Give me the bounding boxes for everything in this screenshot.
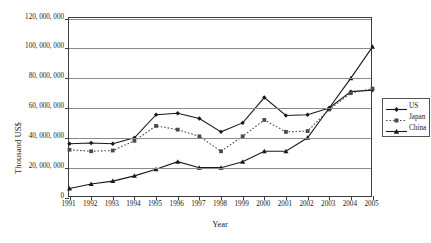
- x-axis-tick-labels: 1991199219931994199519961997199819992000…: [68, 200, 372, 214]
- data-point-marker: [111, 149, 115, 153]
- data-point-marker: [349, 91, 353, 95]
- data-point-marker: [67, 142, 71, 146]
- x-axis-tick-label: 2005: [364, 200, 378, 208]
- x-axis-tick-label: 2001: [278, 200, 292, 208]
- y-axis-tick-labels: 120, 000, 000100, 000, 00080, 000, 00060…: [14, 0, 64, 243]
- data-point-marker: [111, 142, 115, 146]
- data-point-marker: [133, 139, 137, 143]
- data-point-marker: [89, 141, 93, 145]
- legend-item-us[interactable]: US: [385, 101, 426, 112]
- data-point-marker: [371, 87, 375, 91]
- x-axis-tick-label: 2002: [299, 200, 313, 208]
- data-point-marker: [306, 129, 310, 133]
- data-point-marker: [305, 113, 309, 117]
- x-axis-tick-label: 1992: [83, 200, 97, 208]
- legend-item-japan[interactable]: Japan: [385, 112, 426, 123]
- gridline: [69, 78, 371, 79]
- legend-key-swatch: [385, 112, 408, 123]
- x-axis-tick-label: 1999: [235, 200, 249, 208]
- legend-label: US: [408, 103, 418, 110]
- y-axis-tick-label: 0: [60, 193, 64, 200]
- data-point-marker: [154, 124, 158, 128]
- x-axis-tick-label: 1997: [191, 200, 205, 208]
- legend-label: Japan: [408, 114, 425, 121]
- gridline: [69, 19, 371, 20]
- data-point-marker: [176, 111, 180, 115]
- x-axis-title: Year: [68, 219, 372, 229]
- legend-label: China: [408, 125, 426, 132]
- y-axis-tick-label: 20, 000, 000: [29, 163, 64, 170]
- series-line: [70, 89, 373, 152]
- y-axis-tick-mark: [65, 19, 69, 20]
- x-axis-tick-label: 1994: [126, 200, 140, 208]
- x-axis-tick-label: 2004: [343, 200, 357, 208]
- data-point-marker: [89, 149, 93, 153]
- legend: USJapanChina: [382, 98, 430, 137]
- y-axis-tick-mark: [65, 138, 69, 139]
- gridline: [69, 138, 371, 139]
- gridline: [69, 168, 371, 169]
- y-axis-tick-label: 40, 000, 000: [29, 133, 64, 140]
- x-axis-tick-label: 2000: [256, 200, 270, 208]
- line-chart: Thousand US$ 120, 000, 000100, 000, 0008…: [0, 0, 431, 243]
- data-point-marker: [175, 159, 180, 164]
- data-point-marker: [176, 128, 180, 132]
- x-axis-tick-label: 2003: [321, 200, 335, 208]
- data-point-marker: [395, 119, 399, 123]
- gridline: [69, 48, 371, 49]
- series-line: [70, 90, 373, 144]
- x-axis-tick-label: 1991: [61, 200, 75, 208]
- y-axis-tick-mark: [65, 78, 69, 79]
- y-axis-tick-label: 120, 000, 000: [25, 14, 64, 21]
- y-axis-tick-label: 100, 000, 000: [25, 43, 64, 50]
- y-axis-tick-label: 60, 000, 000: [29, 103, 64, 110]
- gridline: [69, 108, 371, 109]
- data-point-marker: [68, 148, 72, 152]
- y-axis-tick-mark: [65, 108, 69, 109]
- y-axis-tick-mark: [65, 198, 69, 199]
- x-axis-tick-label: 1995: [148, 200, 162, 208]
- data-point-marker: [262, 118, 266, 122]
- data-point-marker: [284, 130, 288, 134]
- legend-key-swatch: [385, 123, 408, 134]
- legend-item-china[interactable]: China: [385, 123, 426, 134]
- legend-key-swatch: [385, 101, 408, 112]
- x-axis-tick-label: 1998: [213, 200, 227, 208]
- data-point-marker: [219, 149, 223, 153]
- y-axis-tick-label: 80, 000, 000: [29, 73, 64, 80]
- x-axis-tick-label: 1993: [105, 200, 119, 208]
- plot-area: [68, 17, 372, 197]
- y-axis-tick-mark: [65, 168, 69, 169]
- y-axis-tick-mark: [65, 48, 69, 49]
- x-axis-tick-label: 1996: [170, 200, 184, 208]
